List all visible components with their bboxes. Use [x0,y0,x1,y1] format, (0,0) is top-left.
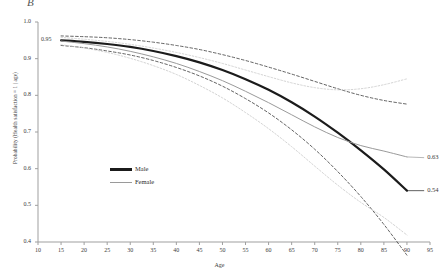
x-tick-label: 70 [305,247,325,253]
x-tick-label: 20 [74,247,94,253]
y-tick-label: 0.6 [5,165,31,171]
x-tick-label: 55 [236,247,256,253]
x-tick-label: 35 [143,247,163,253]
y-tick-label: 0.7 [5,128,31,134]
y-tick-label-highlight: 0.95 [41,36,52,42]
x-tick-label: 25 [97,247,117,253]
legend-label-female: Female [135,179,154,186]
x-tick-label: 75 [328,247,348,253]
y-tick-label: 1.0 [5,18,31,24]
y-tick-label: 0.9 [5,55,31,61]
x-tick-label: 80 [351,247,371,253]
x-tick-label: 95 [420,247,439,253]
annotation-label-male: 0.54 [427,186,438,193]
series-line-female [61,41,407,157]
chart-plot-area [0,0,439,279]
x-tick-label: 85 [374,247,394,253]
legend-item-female: Female [110,176,154,189]
y-tick-label: 0.4 [5,238,31,244]
ci-lower-male [61,45,407,255]
legend-item-male: Male [110,163,154,176]
y-tick-label: 0.8 [5,91,31,97]
figure-panel: B Probability (Health satisfaction = 1 |… [0,0,439,279]
x-tick-label: 90 [397,247,417,253]
ci-upper-male [61,36,407,104]
x-tick-label: 50 [212,247,232,253]
x-tick-label: 45 [189,247,209,253]
legend-line-female-icon [110,182,132,183]
legend-line-male-icon [110,168,132,170]
x-tick-label: 30 [120,247,140,253]
x-tick-label: 65 [282,247,302,253]
x-tick-label: 15 [51,247,71,253]
annotation-leader-lines [407,157,424,191]
y-tick-label: 0.5 [5,201,31,207]
x-tick-label: 10 [28,247,48,253]
x-tick-label: 40 [166,247,186,253]
legend-label-male: Male [135,166,148,173]
x-tick-label: 60 [259,247,279,253]
annotation-leader-female [407,157,424,158]
annotation-label-female: 0.63 [427,153,438,160]
legend: Male Female [110,163,154,189]
